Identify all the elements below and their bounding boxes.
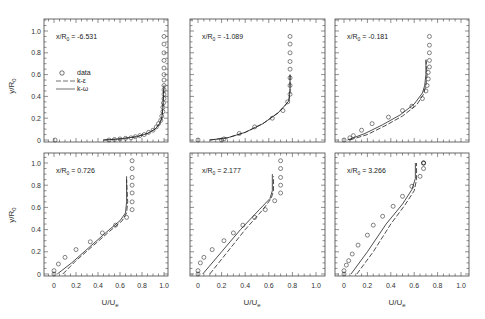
x-tick-label: 0.8: [433, 282, 443, 289]
data-point: [350, 252, 354, 256]
data-point: [427, 65, 431, 69]
data-point: [162, 97, 166, 101]
panel-5: 00.20.40.60.81.0x/R0 = 2.177: [190, 153, 325, 289]
data-point: [130, 183, 134, 187]
data-point: [422, 161, 426, 165]
panel-6: 00.20.40.60.81.0x/R0 = 3.266: [335, 153, 469, 289]
data-point: [427, 34, 431, 38]
xlabel-col3: U/Ue: [388, 298, 406, 308]
svg-text:y/R0: y/R0: [7, 78, 17, 94]
xlabel-col1: U/Ue: [101, 298, 119, 308]
data-point: [356, 243, 360, 247]
x-tick-label: 0: [196, 282, 200, 289]
x-tick-label: 0.4: [386, 282, 396, 289]
komega-curve: [210, 75, 290, 140]
keps-curve: [357, 163, 417, 274]
x-tick-label: 0.2: [71, 282, 81, 289]
x-tick-label: 0.4: [240, 282, 250, 289]
y-tick-label: 0.8: [31, 49, 41, 56]
station-label: x/R0 = 2.177: [202, 167, 241, 176]
data-point: [422, 167, 426, 171]
data-point: [162, 34, 166, 38]
data-point: [74, 248, 78, 252]
y-tick-label: 0: [37, 271, 41, 278]
data-point: [273, 199, 277, 203]
y-tick-label: 0.2: [31, 115, 41, 122]
x-tick-label: 0.2: [363, 282, 373, 289]
data-point: [56, 262, 60, 266]
data-point: [130, 167, 134, 171]
y-tick-label: 0.6: [31, 204, 41, 211]
x-tick-label: 1.0: [456, 282, 466, 289]
data-point: [231, 231, 235, 235]
keps-curve: [104, 86, 165, 141]
panel-2: x/R0 = -1.089: [190, 19, 325, 142]
data-point: [88, 240, 92, 244]
data-point: [130, 208, 134, 212]
x-tick-label: 0.8: [137, 282, 147, 289]
data-point: [279, 159, 283, 163]
data-point: [162, 42, 166, 46]
data-point: [288, 60, 292, 64]
y-tick-label: 0.2: [31, 248, 41, 255]
data-point: [288, 42, 292, 46]
legend-komega-label: k-ω: [77, 85, 89, 92]
komega-curve: [348, 60, 426, 140]
x-tick-label: 1.0: [311, 282, 321, 289]
x-tick-label: 0.6: [115, 282, 125, 289]
data-point: [130, 159, 134, 163]
xlabel-col2: U/Ue: [243, 298, 261, 308]
ylabel-bottom: y/R0: [7, 207, 17, 223]
data-point: [222, 137, 226, 141]
data-point: [288, 51, 292, 55]
data-point: [53, 138, 57, 142]
keps-curve: [210, 176, 274, 274]
y-tick-label: 0.8: [31, 182, 41, 189]
y-tick-label: 1.0: [31, 160, 41, 167]
data-point: [210, 248, 214, 252]
data-point: [418, 174, 422, 178]
y-tick-label: 0: [37, 137, 41, 144]
station-label: x/R0 = 3.266: [347, 167, 386, 176]
data-point: [420, 97, 424, 101]
data-point: [222, 239, 226, 243]
data-point: [279, 191, 283, 195]
x-tick-label: 0.6: [409, 282, 419, 289]
figure-canvas: 00.20.40.60.81.0x/R0 = -6.531x/R0 = -1.0…: [0, 0, 485, 319]
data-point: [391, 204, 395, 208]
station-label: x/R0 = -0.181: [347, 33, 388, 42]
komega-curve: [57, 176, 126, 274]
station-label: x/R0 = -6.531: [56, 33, 97, 42]
data-point: [198, 261, 202, 265]
y-tick-label: 0.4: [31, 226, 41, 233]
data-point: [347, 259, 351, 263]
legend: data k-ε k-ω: [56, 69, 91, 92]
station-label: x/R0 = -1.089: [202, 33, 243, 42]
data-point: [401, 194, 405, 198]
data-point: [130, 175, 134, 179]
x-tick-label: 0.4: [93, 282, 103, 289]
x-tick-label: 0.6: [264, 282, 274, 289]
data-point: [279, 175, 283, 179]
data-point: [427, 58, 431, 62]
y-tick-label: 0.6: [31, 71, 41, 78]
data-point: [371, 223, 375, 227]
x-tick-label: 0: [52, 282, 56, 289]
x-tick-label: 0.2: [217, 282, 227, 289]
data-point: [344, 263, 348, 267]
data-point: [288, 34, 292, 38]
data-point: [162, 78, 166, 82]
panel-4: 00.20.40.60.81.000.20.40.60.81.0x/R0 = 0…: [31, 153, 169, 289]
x-tick-label: 0: [342, 282, 346, 289]
komega-curve: [104, 86, 165, 141]
legend-data-label: data: [77, 69, 91, 76]
data-point: [202, 255, 206, 259]
data-point: [360, 128, 364, 132]
data-point: [381, 214, 385, 218]
data-point: [370, 122, 374, 126]
legend-keps-label: k-ε: [77, 77, 86, 84]
data-point: [162, 58, 166, 62]
svg-text:y/R0: y/R0: [7, 207, 17, 223]
data-point: [162, 66, 166, 70]
y-tick-label: 0.4: [31, 93, 41, 100]
